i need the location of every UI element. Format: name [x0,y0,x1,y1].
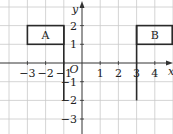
origin-label: O [70,63,79,76]
y-tick-label: −1 [61,76,77,89]
x-tick-label: 1 [97,67,104,80]
y-tick-label: 1 [70,38,77,51]
x-axis-label: x [168,65,173,78]
y-axis-label: y [71,3,79,16]
coordinate-diagram: A B −3 −2 −1 1 2 3 4 2 1 −1 −2 −3 y x [0,0,173,134]
y-tick-label: 2 [70,20,77,33]
y-tick-label: −2 [61,94,77,107]
x-tick-label: 3 [133,67,140,80]
x-tick-label: −3 [19,67,35,80]
flag-b-label: B [151,29,159,42]
x-tick-label: 4 [151,67,158,80]
y-tick-label: −3 [61,113,77,126]
flag-a-label: A [41,29,51,42]
x-tick-label: 2 [115,67,122,80]
x-tick-labels: −3 −2 −1 1 2 3 4 [19,67,158,80]
coordinate-plane: A B −3 −2 −1 1 2 3 4 2 1 −1 −2 −3 y x [0,0,173,134]
y-axis-arrow-icon [80,1,85,8]
x-tick-label: −2 [37,67,53,80]
